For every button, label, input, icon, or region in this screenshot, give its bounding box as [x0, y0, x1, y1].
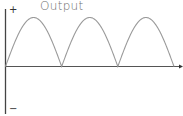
waveform-plot [0, 0, 183, 116]
rectified-wave [6, 18, 175, 67]
x-axis-arrow-icon [179, 65, 183, 69]
